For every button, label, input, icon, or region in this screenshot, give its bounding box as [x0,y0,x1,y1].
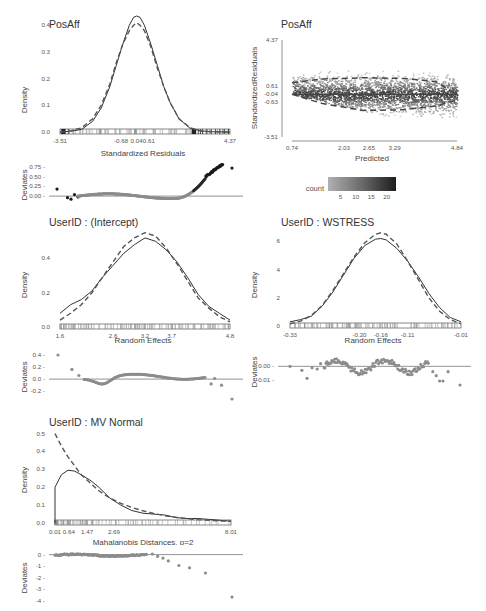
posaff-density-xlabel-visible: Standardized Residuals [101,149,186,158]
intercept-density-title: UserID : (Intercept) [49,216,138,228]
y-tick-label: 6 [277,237,281,244]
posaff-deviates-panel: Deviates 0.00 -0.25 -0.50 -0.75 - [0,160,243,210]
mvnormal-density-yticks: 0.00.10.20.30.40.5 [36,430,45,526]
posaff-resid-vs-pred-panel: PosAff StandardizedResiduals -3.51-0.63-… [243,0,486,200]
x-tick-label: 4.84 [451,144,464,151]
mvnormal-density-chisq-line [55,434,231,522]
y-tick-label: 0.25 - [29,182,45,189]
intercept-density-rug [60,324,230,329]
wstress-density-panel: UserID : WSTRESS Density 0246 -0.33-0.20… [243,210,486,345]
legend-tick-label: 5 [339,193,343,200]
x-tick-label: 0.74 [286,144,299,151]
y-tick-label: 2 [277,294,281,301]
y-tick-label: 0.50 - [29,173,45,180]
intercept-density-panel: UserID : (Intercept) Density 0.00.20.4 1… [0,210,243,345]
x-tick-label: 4.37 [224,137,237,144]
posaff-deviates-points [55,163,233,201]
count-legend-title: count [306,184,325,193]
posaff-hex-ylabel: StandardizedResiduals [250,47,259,129]
posaff-hex-xlabel: Predicted [355,154,389,163]
y-tick-label: -0.01 - [256,376,274,383]
y-tick-label: 0.4 [41,21,50,28]
y-tick-label: 0.5 [36,430,45,437]
x-tick-label: 0.01 [49,528,62,535]
x-tick-label: 1.47 [81,528,94,535]
wstress-density-yticks: 0246 [277,237,281,329]
wstress-density-normal-line [290,233,461,324]
posaff-density-ylabel: Density [20,87,29,114]
wstress-deviates-ylabel: Deviates [250,356,259,387]
posaff-density-yticks: 0.00.10.20.30.4 [41,21,50,135]
intercept-deviates-ylabel: Deviates [20,361,29,392]
mvnormal-deviates-ylabel: Deviates [20,562,29,593]
y-tick-label: 0.2 - [33,363,45,370]
x-tick-label: 0.64 [63,528,76,535]
y-tick-label: 0.1 [36,501,45,508]
y-tick-label: 0.0 - [33,375,45,382]
wstress-density-title: UserID : WSTRESS [281,216,374,228]
x-tick-label: -0.01 [454,331,469,338]
intercept-density-xlabel: Random Effects [115,336,172,345]
y-tick-label: -3 - [36,585,45,592]
x-tick-label: 2.03 [338,144,351,151]
count-legend-colorbar [328,177,396,191]
wstress-density-ylabel: Density [250,272,259,299]
mvnormal-deviates-panel: Deviates -4 --3 --2 --1 -0 - [0,548,243,611]
y-tick-label: 0.4 [41,254,50,261]
y-tick-label: 0 [277,322,281,329]
mvnormal-density-panel: UserID : MV Normal Density 0.00.10.20.30… [0,410,243,545]
posaff-density-normal-line [60,23,230,132]
mvnormal-deviates-yticks: -4 --3 --2 --1 -0 - [36,551,45,604]
y-tick-label: 0.3 [36,465,45,472]
mvnormal-density-xlabel: Mahalanobis Distances, p=2 [93,538,194,545]
x-tick-label: -0.33 [283,331,298,338]
posaff-hex-xticks: 0.742.032.653.294.84 [286,144,464,151]
y-tick-label: 0.1 [41,101,50,108]
wstress-density-xlabel: Random Effects [345,336,402,345]
x-tick-label: 0.04 [131,137,144,144]
x-tick-label: 1.6 [56,332,65,339]
legend-tick-label: 20 [383,193,390,200]
posaff-density-title: PosAff [49,18,80,30]
intercept-density-empirical-line [60,238,230,320]
wstress-density-rug [290,323,461,328]
legend-tick-label: 15 [368,193,375,200]
y-tick-label: 0.61 [266,82,279,89]
y-tick-label: -3.51 [264,133,279,140]
y-tick-label: 0 - [38,551,45,558]
intercept-density-yticks: 0.00.20.4 [41,254,50,330]
y-tick-label: 4 [277,266,281,273]
y-tick-label: -0.2 - [31,387,45,394]
posaff-hex-title: PosAff [281,18,312,30]
y-tick-label: -2 - [36,574,45,581]
mvnormal-density-rug [55,520,231,525]
y-tick-label: 0.2 [36,483,45,490]
posaff-density-xticks: -3.51-0.680.040.614.37 [53,137,237,144]
y-tick-label: 0.0 [36,519,45,526]
y-tick-label: 0.0 [41,323,50,330]
x-tick-label: -3.51 [53,137,68,144]
y-tick-label: 0.4 [36,447,45,454]
intercept-deviates-points [56,353,233,400]
x-tick-label: 2.69 [108,528,121,535]
y-tick-label: 0.75 - [29,163,45,170]
y-tick-label: 4.37 [266,36,279,43]
y-tick-label: 0.0 [41,128,50,135]
mvnormal-density-title: UserID : MV Normal [49,416,143,428]
y-tick-label: -1 - [36,562,45,569]
y-tick-label: 0.00 - [29,192,45,199]
y-tick-label: 0.4 - [33,351,45,358]
y-tick-label: 0.2 [41,75,50,82]
posaff-density-panel: PosAff Density 0.00.10.20.30.4 -3.51-0.6… [0,0,243,150]
x-tick-label: 2.65 [363,144,376,151]
wstress-deviates-panel: Deviates -0.01 -0.00 - [243,350,486,410]
x-tick-label: -0.68 [114,137,129,144]
y-tick-label: -0.63 [264,98,279,105]
x-tick-label: -0.11 [401,331,415,338]
x-tick-label: 0.61 [143,137,156,144]
x-tick-label: 3.29 [389,144,402,151]
legend-tick-label: 10 [352,193,359,200]
intercept-deviates-yticks: -0.2 -0.0 -0.2 -0.4 - [31,351,45,394]
mvnormal-deviates-points [54,552,234,598]
y-tick-label: 0.00 - [258,362,274,369]
